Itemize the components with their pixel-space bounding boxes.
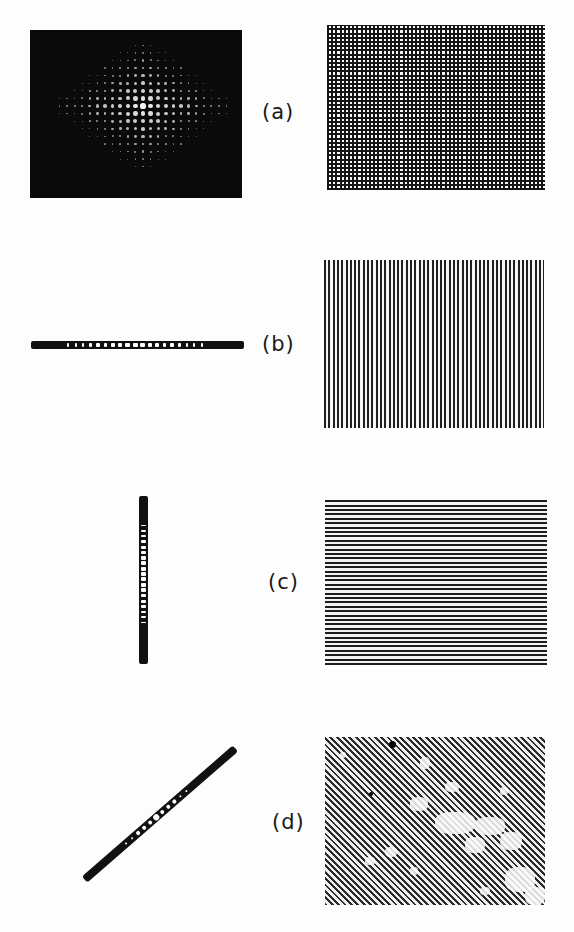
diffraction-pattern-c	[139, 496, 148, 664]
grating-image-b	[324, 260, 544, 428]
diffraction-pattern-d	[82, 745, 238, 882]
panel-label-b: (b)	[262, 332, 295, 356]
panel-label-c: (c)	[268, 570, 299, 594]
panel-label-a: (a)	[262, 100, 294, 124]
panel-label-d: (d)	[272, 810, 305, 834]
grating-image-d	[325, 737, 545, 905]
grating-image-c	[325, 500, 547, 665]
grating-image-a	[327, 25, 545, 190]
diffraction-pattern-b	[31, 341, 244, 349]
diffraction-pattern-a	[30, 30, 242, 198]
